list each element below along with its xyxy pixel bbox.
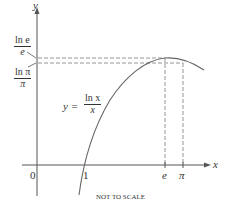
not-to-scale-note: NOT TO SCALE [96,193,145,201]
x-axis-arrow-icon [204,163,211,168]
y-axis-label: y [33,0,38,11]
plot-svg [0,0,225,213]
curve-label-fraction: ln x x [84,93,101,115]
diagram: y x 0 1 e π ln e e ln π π y = ln x x NOT… [0,0,225,213]
origin-label: 0 [30,170,36,181]
tick-pi: π [179,170,185,181]
curve-label-lhs: y = [63,101,78,112]
x-axis-label: x [213,159,218,170]
tick-1: 1 [83,170,89,181]
tick-e: e [162,170,167,181]
curve [79,58,204,195]
label-ln-pi-over-pi: ln π π [14,67,31,89]
label-ln-e-over-e: ln e e [14,35,31,57]
